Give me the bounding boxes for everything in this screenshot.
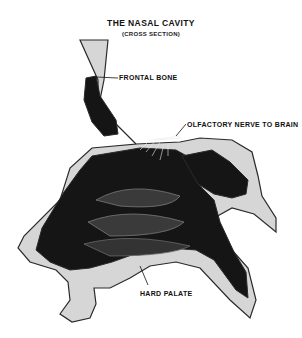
olfactory-pointer <box>176 124 186 136</box>
label-hard-palate: HARD PALATE <box>140 290 192 297</box>
label-olfactory-nerve: OLFACTORY NERVE TO BRAIN <box>187 121 298 128</box>
label-frontal-bone: FRONTAL BONE <box>119 74 178 81</box>
nasal-cavity-illustration <box>0 0 302 338</box>
